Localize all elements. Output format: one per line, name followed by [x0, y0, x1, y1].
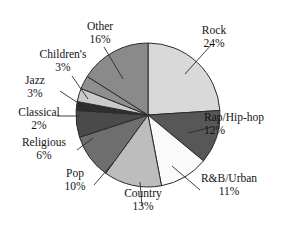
- pie-label-rock: Rock 24%: [189, 24, 239, 49]
- pie-label-classical-name: Classical: [3, 106, 75, 119]
- pie-label-rap-percent: 12%: [204, 124, 288, 137]
- pie-chart-figure: Other 16% Rock 24% Children's 3% Jazz 3%…: [0, 0, 296, 233]
- pie-label-childrens-percent: 3%: [28, 61, 98, 74]
- pie-label-religious-percent: 6%: [8, 149, 80, 162]
- pie-slice-rock: [148, 43, 220, 115]
- pie-label-classical: Classical 2%: [3, 106, 75, 131]
- pie-label-rnb-name: R&B/Urban: [186, 172, 272, 185]
- pie-label-childrens: Children's 3%: [28, 48, 98, 73]
- pie-label-pop: Pop 10%: [55, 167, 95, 192]
- pie-label-rap: Rap/Hip-hop 12%: [204, 111, 288, 136]
- pie-label-country-name: Country: [112, 187, 174, 200]
- pie-label-jazz-name: Jazz: [13, 74, 57, 87]
- pie-label-rnb-percent: 11%: [186, 185, 272, 198]
- pie-label-childrens-name: Children's: [28, 48, 98, 61]
- pie-label-rap-name: Rap/Hip-hop: [204, 111, 288, 124]
- pie-label-pop-name: Pop: [55, 167, 95, 180]
- pie-label-religious: Religious 6%: [8, 136, 80, 161]
- pie-label-rock-percent: 24%: [189, 37, 239, 50]
- pie-label-other-name: Other: [72, 20, 128, 33]
- pie-label-religious-name: Religious: [8, 136, 80, 149]
- pie-label-pop-percent: 10%: [55, 180, 95, 193]
- pie-label-country-percent: 13%: [112, 200, 174, 213]
- pie-label-jazz: Jazz 3%: [13, 74, 57, 99]
- pie-label-country: Country 13%: [112, 187, 174, 212]
- pie-label-classical-percent: 2%: [3, 119, 75, 132]
- pie-label-rnb: R&B/Urban 11%: [186, 172, 272, 197]
- pie-label-other: Other 16%: [72, 20, 128, 45]
- pie-label-jazz-percent: 3%: [13, 87, 57, 100]
- pie-label-rock-name: Rock: [189, 24, 239, 37]
- pie-label-other-percent: 16%: [72, 33, 128, 46]
